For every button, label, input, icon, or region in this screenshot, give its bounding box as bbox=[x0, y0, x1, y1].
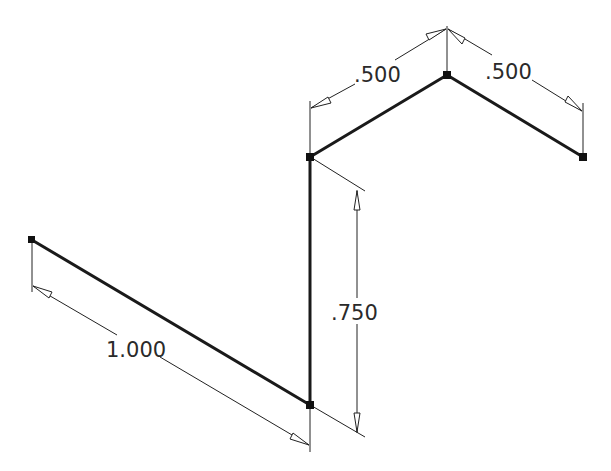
dimension-label: .500 bbox=[485, 60, 532, 84]
dimension-0500-right[interactable]: .500 bbox=[448, 29, 583, 155]
extension-line bbox=[312, 158, 365, 191]
arrowhead-icon bbox=[354, 413, 360, 432]
arrowhead-icon bbox=[33, 286, 52, 298]
segment-diagonal-lower[interactable] bbox=[32, 240, 310, 405]
dimension-line bbox=[160, 357, 309, 445]
arrowhead-icon bbox=[290, 433, 309, 445]
vertex-p4[interactable] bbox=[443, 71, 451, 79]
vertex-p5[interactable] bbox=[579, 153, 587, 161]
dimension-0750[interactable]: .750 bbox=[312, 158, 378, 437]
arrowhead-icon bbox=[565, 96, 582, 111]
segment-upper-left[interactable] bbox=[310, 75, 447, 157]
segment-upper-right[interactable] bbox=[447, 75, 583, 157]
sketch-canvas: 1.000 .750 .500 .500 bbox=[0, 0, 611, 471]
vertex-p3[interactable] bbox=[306, 153, 314, 161]
dimension-label: .750 bbox=[331, 301, 378, 325]
dimension-0500-left[interactable]: .500 bbox=[310, 26, 447, 155]
arrowhead-icon bbox=[311, 97, 331, 108]
dimension-1000[interactable]: 1.000 bbox=[32, 242, 310, 452]
vertex-p2[interactable] bbox=[306, 401, 314, 409]
dimension-label: 1.000 bbox=[106, 338, 166, 362]
arrowhead-icon bbox=[426, 29, 446, 40]
arrowhead-icon bbox=[354, 191, 360, 210]
arrowhead-icon bbox=[448, 29, 465, 44]
dimension-label: .500 bbox=[354, 63, 401, 87]
vertex-p1[interactable] bbox=[28, 236, 35, 243]
